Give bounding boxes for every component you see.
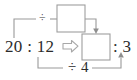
left-ratio-text: 20 : 12	[5, 38, 54, 55]
ratio-diagram-canvas: 20 : 12 : 3 ÷ ÷ 4	[0, 0, 137, 80]
right-ratio-tail-text: : 3	[113, 38, 131, 55]
top-bracket-left-path	[14, 19, 36, 38]
answer-empty-box[interactable]	[82, 34, 110, 60]
bottom-operation-label: ÷ 4	[68, 60, 89, 75]
bottom-bracket-left-path	[38, 57, 63, 68]
top-operation-label: ÷	[39, 11, 46, 23]
top-empty-box[interactable]	[57, 5, 85, 32]
top-box-to-answer-path	[85, 19, 96, 30]
down-arrowhead-icon	[93, 29, 99, 35]
implies-arrow-icon	[63, 41, 78, 53]
